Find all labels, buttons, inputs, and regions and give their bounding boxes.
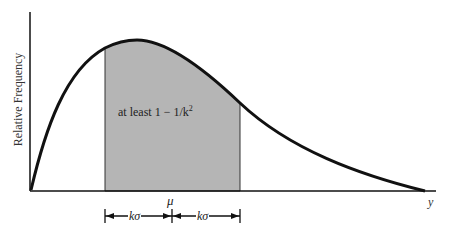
region-label-text: at least 1 − 1/k — [118, 105, 189, 119]
left-k-sigma-label: kσ — [128, 209, 141, 224]
interval-marker — [105, 209, 240, 223]
shaded-region-label: at least 1 − 1/k2 — [118, 104, 193, 120]
chart-canvas — [0, 0, 449, 241]
mu-label: μ — [167, 193, 174, 209]
x-axis-label: y — [428, 195, 433, 210]
right-k-sigma-label: kσ — [196, 209, 209, 224]
y-axis-label: Relative Frequency — [11, 50, 26, 150]
region-label-exponent: 2 — [189, 104, 193, 113]
